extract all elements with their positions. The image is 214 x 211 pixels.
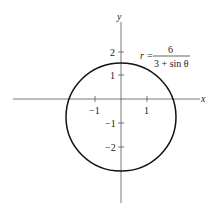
- y-tick-label-neg1: −1: [105, 118, 116, 129]
- equation-denominator: 3 + sin θ: [154, 58, 189, 69]
- x-axis-label: x: [200, 93, 206, 104]
- polar-plot: −1 1 2 1 −1 −2 x y r = 6 3 + sin θ: [0, 0, 214, 211]
- x-tick-label-neg1: −1: [89, 105, 100, 116]
- y-tick-label-neg2: −2: [105, 142, 116, 153]
- equation-numerator: 6: [168, 44, 173, 55]
- equation-lhs: r =: [140, 50, 153, 61]
- y-tick-label-2: 2: [110, 47, 115, 58]
- y-tick-label-1: 1: [110, 70, 115, 81]
- y-axis-label: y: [116, 11, 122, 22]
- x-tick-label-1: 1: [144, 105, 149, 116]
